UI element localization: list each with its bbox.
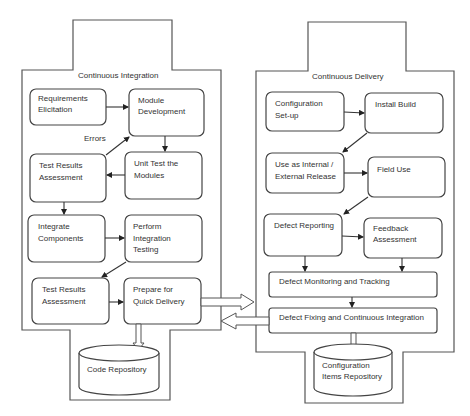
- svg-text:Assessment: Assessment: [39, 173, 83, 182]
- node-test-results-assessment-2: Test Results Assessment: [32, 278, 109, 324]
- node-module-development: Module Development: [129, 89, 204, 136]
- svg-text:Integrate: Integrate: [38, 222, 70, 231]
- svg-text:Assessment: Assessment: [42, 297, 86, 306]
- svg-text:Testing: Testing: [133, 245, 158, 254]
- svg-text:Defect Monitoring and Tracking: Defect Monitoring and Tracking: [279, 277, 390, 286]
- node-prepare-quick-delivery: Prepare for Quick Delivery: [124, 278, 201, 324]
- svg-text:Set-up: Set-up: [275, 111, 299, 120]
- node-field-use: Field Use: [368, 157, 445, 197]
- errors-label: Errors: [84, 134, 106, 143]
- svg-text:External Release: External Release: [275, 172, 336, 181]
- svg-text:Module: Module: [138, 96, 165, 105]
- svg-text:Field Use: Field Use: [377, 165, 411, 174]
- node-defect-reporting: Defect Reporting: [264, 214, 342, 256]
- svg-text:Unit Test the: Unit Test the: [134, 159, 179, 168]
- code-repository: Code Repository: [79, 345, 159, 395]
- svg-text:Perform: Perform: [133, 222, 162, 231]
- arrow-cd-to-ci: [221, 313, 269, 329]
- svg-text:Prepare for: Prepare for: [133, 285, 173, 294]
- node-configuration-setup: Configuration Set-up: [266, 92, 344, 131]
- node-install-build: Install Build: [365, 93, 443, 133]
- node-use-release: Use as Internal / External Release: [266, 153, 344, 193]
- node-integrate-components: Integrate Components: [28, 215, 105, 262]
- cd-title: Continuous Delivery: [312, 72, 384, 81]
- svg-text:Assessment: Assessment: [373, 235, 417, 244]
- node-defect-monitoring: Defect Monitoring and Tracking: [269, 272, 437, 297]
- ci-title: Continuous Integration: [78, 71, 159, 80]
- configuration-items-repository: Configuration Items Repository: [314, 344, 392, 396]
- svg-text:Development: Development: [138, 107, 186, 116]
- ci-cd-diagram: Continuous Integration Requirements Elic…: [0, 0, 470, 416]
- node-requirements-elicitation: Requirements Elicitation: [30, 89, 106, 125]
- node-unit-test: Unit Test the Modules: [125, 152, 202, 199]
- svg-text:Modules: Modules: [134, 171, 164, 180]
- svg-text:Elicitation: Elicitation: [38, 105, 72, 114]
- svg-text:Components: Components: [38, 234, 83, 243]
- svg-text:Test Results: Test Results: [42, 285, 86, 294]
- svg-text:Code Repository: Code Repository: [87, 365, 147, 374]
- node-perform-integration-testing: Perform Integration Testing: [125, 215, 202, 262]
- svg-text:Quick Delivery: Quick Delivery: [133, 297, 185, 306]
- svg-text:Test Results: Test Results: [39, 161, 83, 170]
- node-test-results-assessment-1: Test Results Assessment: [30, 154, 106, 202]
- svg-text:Configuration: Configuration: [275, 99, 323, 108]
- arrow-ci-to-cd: [201, 294, 254, 310]
- node-feedback-assessment: Feedback Assessment: [364, 218, 442, 258]
- svg-text:Configuration: Configuration: [322, 361, 370, 370]
- node-defect-fixing: Defect Fixing and Continuous Integration: [269, 308, 437, 333]
- svg-text:Items Repository: Items Repository: [322, 372, 382, 381]
- svg-text:Defect Fixing and Continuous I: Defect Fixing and Continuous Integration: [279, 313, 424, 322]
- svg-text:Install Build: Install Build: [375, 100, 416, 109]
- svg-text:Requirements: Requirements: [38, 94, 88, 103]
- svg-text:Defect Reporting: Defect Reporting: [274, 221, 334, 230]
- svg-text:Use as Internal /: Use as Internal /: [275, 160, 334, 169]
- svg-text:Integration: Integration: [133, 234, 171, 243]
- svg-text:Feedback: Feedback: [373, 224, 409, 233]
